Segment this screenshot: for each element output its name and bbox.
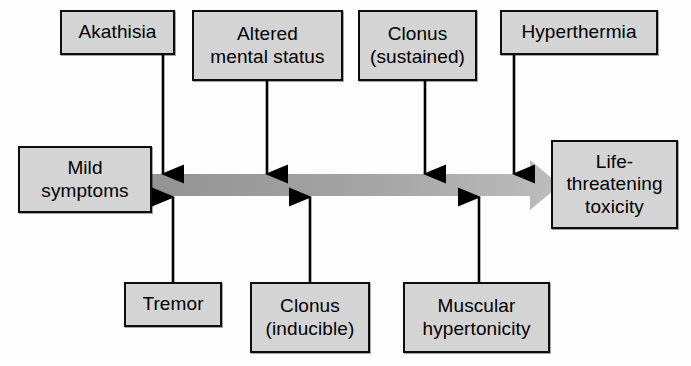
node-altered-mental-status: Altered mental status bbox=[192, 10, 343, 81]
node-life-threatening-toxicity-label: Life- threatening toxicity bbox=[562, 151, 666, 217]
node-muscular-hypertonicity: Muscular hypertonicity bbox=[403, 282, 550, 353]
node-clonus-sustained: Clonus (sustained) bbox=[358, 10, 477, 81]
node-hyperthermia: Hyperthermia bbox=[500, 10, 658, 55]
node-mild-symptoms: Mild symptoms bbox=[18, 146, 152, 213]
severity-gradient-arrow bbox=[150, 160, 560, 210]
serotonin-syndrome-spectrum-diagram: Mild symptoms Life- threatening toxicity… bbox=[0, 0, 691, 366]
node-clonus-inducible-label: Clonus (inducible) bbox=[262, 295, 359, 339]
node-clonus-sustained-label: Clonus (sustained) bbox=[366, 23, 469, 67]
node-akathisia: Akathisia bbox=[60, 10, 175, 55]
node-tremor: Tremor bbox=[124, 282, 222, 327]
node-clonus-inducible: Clonus (inducible) bbox=[250, 282, 370, 353]
node-hyperthermia-label: Hyperthermia bbox=[517, 21, 640, 43]
node-tremor-label: Tremor bbox=[138, 293, 207, 315]
node-mild-symptoms-label: Mild symptoms bbox=[37, 157, 132, 201]
node-akathisia-label: Akathisia bbox=[75, 21, 161, 43]
node-altered-mental-status-label: Altered mental status bbox=[206, 23, 328, 67]
node-muscular-hypertonicity-label: Muscular hypertonicity bbox=[419, 295, 535, 339]
node-life-threatening-toxicity: Life- threatening toxicity bbox=[551, 140, 678, 229]
